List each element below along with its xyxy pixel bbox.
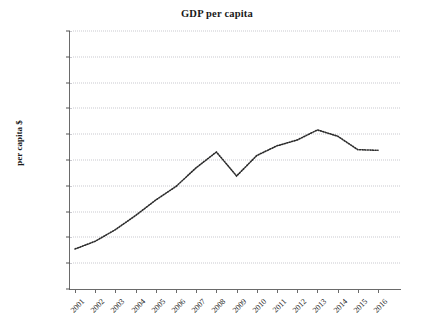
data-series-line	[70, 31, 400, 289]
x-tick-mark	[378, 289, 379, 293]
x-tick-mark	[297, 289, 298, 293]
x-tick-mark	[75, 289, 76, 293]
x-tick-mark	[196, 289, 197, 293]
y-axis-title: per capita $	[14, 98, 24, 188]
x-tick-mark	[216, 289, 217, 293]
x-tick-mark	[156, 289, 157, 293]
x-tick-mark	[277, 289, 278, 293]
y-axis-title-container: per capita $	[8, 0, 26, 331]
x-axis-line	[69, 289, 401, 290]
x-tick-mark	[338, 289, 339, 293]
x-tick-mark	[317, 289, 318, 293]
plot-area: 02 0004 0006 0008 00010 00012 00014 0001…	[70, 31, 400, 289]
chart-title: GDP per capita	[0, 8, 434, 19]
x-tick-mark	[257, 289, 258, 293]
x-tick-mark	[136, 289, 137, 293]
x-tick-mark	[115, 289, 116, 293]
series-polyline	[75, 130, 378, 249]
x-tick-mark	[95, 289, 96, 293]
x-tick-mark	[237, 289, 238, 293]
x-tick-mark	[176, 289, 177, 293]
x-tick-mark	[358, 289, 359, 293]
gdp-per-capita-chart: GDP per capita per capita $ 02 0004 0006…	[0, 0, 434, 331]
